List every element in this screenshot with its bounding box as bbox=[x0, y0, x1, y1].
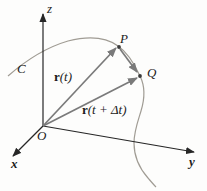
point-q-label: Q bbox=[147, 66, 156, 79]
vector-r-t-plus-dt-label: r(t + Δt) bbox=[82, 103, 127, 116]
vector-r-t-label: r(t) bbox=[54, 70, 72, 83]
vector-r-t-plus-dt-label-arg: (t + Δt) bbox=[88, 102, 127, 117]
vector-r-t-label-arg: (t) bbox=[60, 69, 72, 84]
vector-function-diagram: z C P Q O x y r(t) r(t + Δt) bbox=[0, 0, 207, 191]
point-q-dot bbox=[138, 74, 142, 78]
diagram-canvas bbox=[0, 0, 207, 191]
y-axis bbox=[43, 126, 194, 152]
point-p-label: P bbox=[120, 32, 128, 45]
origin-label: O bbox=[37, 129, 46, 142]
x-axis-label: x bbox=[11, 157, 18, 170]
z-axis-label: z bbox=[47, 2, 52, 15]
curve-label: C bbox=[17, 62, 26, 75]
vector-pq-secant bbox=[120, 49, 137, 72]
y-axis-label: y bbox=[189, 155, 195, 168]
